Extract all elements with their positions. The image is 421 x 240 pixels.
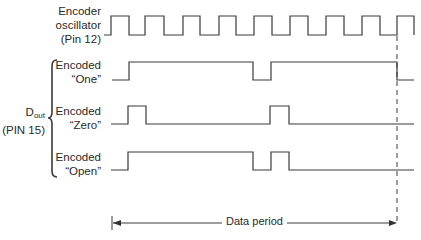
encoded-one-waveform [112,62,414,80]
dout-label: Dout [2,105,45,123]
encoded-one-label-line1: Encoded [56,58,101,72]
dout-main: D [26,106,34,118]
arrow-left-head [113,220,121,226]
encoded-open-label-line2: “Open” [56,164,101,178]
encoded-open-label-line1: Encoded [56,150,101,164]
encoded-open-waveform [111,152,414,170]
encoded-zero-label: Encoded “Zero” [56,104,101,132]
oscillator-waveform [104,16,414,35]
oscillator-label: Encoder oscillator (Pin 12) [56,4,101,46]
encoded-zero-label-line1: Encoded [56,104,101,118]
dout-subscript: out [34,111,45,120]
oscillator-label-line3: (Pin 12) [56,32,101,46]
encoded-open-label: Encoded “Open” [56,150,101,178]
oscillator-label-line1: Encoder [56,4,101,18]
encoded-one-label-line2: “One” [56,72,101,86]
encoded-zero-label-line2: “Zero” [56,118,101,132]
encoded-one-label: Encoded “One” [56,58,101,86]
dout-group-label: Dout (PIN 15) [2,105,45,137]
data-period-label: Data period [222,215,287,227]
encoded-zero-waveform [111,106,414,124]
dout-pin-label: (PIN 15) [2,123,45,137]
oscillator-label-line2: oscillator [56,18,101,32]
arrow-right-head [389,220,397,226]
